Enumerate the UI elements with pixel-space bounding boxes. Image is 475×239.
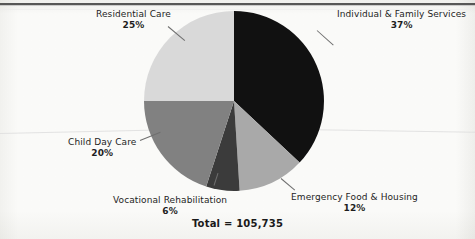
slice-label-name: Vocational Rehabilitation	[113, 195, 227, 206]
pie-svg	[144, 11, 324, 191]
pie-chart	[144, 11, 324, 191]
slice-label-vocational-rehabilitation: Vocational Rehabilitation 6%	[113, 195, 227, 217]
header-rule-shadow	[0, 5, 475, 6]
slice-label-name: Individual & Family Services	[337, 9, 466, 20]
slice-label-percent: 20%	[68, 148, 136, 159]
slice-label-percent: 25%	[96, 20, 171, 31]
slice-label-percent: 37%	[337, 20, 466, 31]
chart-total: Total = 105,735	[0, 218, 475, 229]
slice-label-residential-care: Residential Care 25%	[96, 9, 171, 31]
slice-label-name: Child Day Care	[68, 137, 136, 148]
slice-label-emergency-food-housing: Emergency Food & Housing 12%	[291, 192, 418, 214]
pie-chart-page: Individual & Family Services 37% Residen…	[0, 0, 475, 239]
slice-label-child-day-care: Child Day Care 20%	[68, 137, 136, 159]
slice-label-percent: 12%	[291, 203, 418, 214]
slice-label-percent: 6%	[113, 206, 227, 217]
slice-label-name: Emergency Food & Housing	[291, 192, 418, 203]
slice-label-individual-family-services: Individual & Family Services 37%	[337, 9, 466, 31]
slice-label-name: Residential Care	[96, 9, 171, 20]
